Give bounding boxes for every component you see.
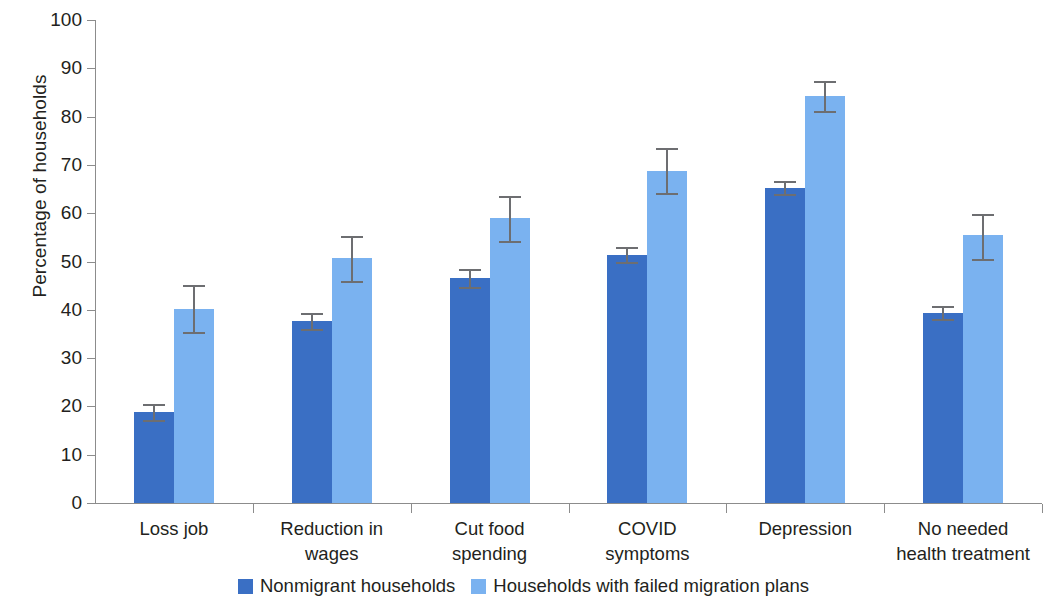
y-axis-tick-mark xyxy=(87,213,95,214)
legend-label: Nonmigrant households xyxy=(260,575,455,597)
x-axis-tick-mark xyxy=(411,504,412,513)
error-bar-cap-upper xyxy=(972,214,994,216)
error-bar-cap-lower xyxy=(499,241,521,243)
error-bar-cap-upper xyxy=(932,306,954,308)
chart-legend: Nonmigrant householdsHouseholds with fai… xyxy=(0,575,1047,597)
error-bar-cap-lower xyxy=(143,420,165,422)
bar xyxy=(647,171,687,503)
x-axis-tick-mark xyxy=(726,504,727,513)
y-axis-tick-mark xyxy=(87,455,95,456)
x-axis-category-label: Loss job xyxy=(95,516,253,541)
bar xyxy=(923,313,963,503)
bar xyxy=(607,255,647,503)
bar xyxy=(490,218,530,503)
error-bar xyxy=(193,285,195,332)
y-axis-tick-label: 70 xyxy=(36,154,82,176)
bar xyxy=(134,412,174,503)
error-bar-cap-upper xyxy=(616,247,638,249)
y-axis-tick-mark xyxy=(87,262,95,263)
error-bar-cap-lower xyxy=(616,262,638,264)
legend-item: Nonmigrant households xyxy=(238,575,455,597)
error-bar-cap-upper xyxy=(341,236,363,238)
category-label-line2: health treatment xyxy=(884,541,1042,566)
error-bar xyxy=(311,313,313,329)
error-bar-cap-upper xyxy=(499,196,521,198)
y-axis-tick-labels: 0102030405060708090100 xyxy=(36,0,82,609)
category-label-line1: No needed xyxy=(918,518,1009,539)
error-bar xyxy=(824,81,826,111)
plot-area xyxy=(95,20,1042,503)
error-bar xyxy=(469,269,471,286)
error-bar-cap-lower xyxy=(656,193,678,195)
category-label-line2: spending xyxy=(411,541,569,566)
error-bar-cap-lower xyxy=(301,329,323,331)
category-label-line1: Loss job xyxy=(139,518,208,539)
y-axis-tick-mark xyxy=(87,358,95,359)
error-bar-cap-upper xyxy=(774,181,796,183)
legend-label: Households with failed migration plans xyxy=(493,575,809,597)
error-bar-cap-upper xyxy=(183,285,205,287)
bar xyxy=(292,321,332,503)
category-label-line1: Reduction in xyxy=(280,518,383,539)
error-bar-cap-lower xyxy=(972,259,994,261)
error-bar-cap-upper xyxy=(143,404,165,406)
error-bar-cap-lower xyxy=(932,319,954,321)
category-label-line2: wages xyxy=(253,541,411,566)
category-label-line2: symptoms xyxy=(569,541,727,566)
category-label-line1: COVID xyxy=(618,518,677,539)
error-bar-cap-lower xyxy=(459,287,481,289)
y-axis-tick-label: 0 xyxy=(36,492,82,514)
y-axis-tick-label: 50 xyxy=(36,251,82,273)
x-axis-category-label: Cut foodspending xyxy=(411,516,569,566)
category-label-line1: Depression xyxy=(758,518,852,539)
error-bar-cap-lower xyxy=(341,281,363,283)
error-bar xyxy=(351,236,353,280)
bar xyxy=(805,96,845,503)
y-axis-tick-label: 20 xyxy=(36,395,82,417)
error-bar xyxy=(153,404,155,419)
error-bar xyxy=(982,214,984,258)
error-bar-cap-lower xyxy=(183,332,205,334)
error-bar xyxy=(509,196,511,241)
bar xyxy=(765,188,805,503)
y-axis-tick-label: 100 xyxy=(36,9,82,31)
y-axis-tick-mark xyxy=(87,406,95,407)
y-axis-tick-label: 80 xyxy=(36,106,82,128)
bar-chart: Percentage of households 010203040506070… xyxy=(0,0,1047,609)
x-axis-tick-mark xyxy=(253,504,254,513)
x-axis-category-label: Reduction inwages xyxy=(253,516,411,566)
legend-item: Households with failed migration plans xyxy=(471,575,809,597)
bar xyxy=(174,309,214,503)
error-bar xyxy=(666,148,668,193)
y-axis-tick-label: 10 xyxy=(36,444,82,466)
x-axis-tick-mark xyxy=(1042,504,1043,513)
error-bar-cap-upper xyxy=(814,81,836,83)
error-bar xyxy=(784,181,786,195)
x-axis-category-label: Depression xyxy=(726,516,884,541)
y-axis-tick-mark xyxy=(87,20,95,21)
y-axis-tick-mark xyxy=(87,165,95,166)
x-axis-tick-mark xyxy=(569,504,570,513)
y-axis-tick-label: 30 xyxy=(36,347,82,369)
x-axis-category-label: COVIDsymptoms xyxy=(569,516,727,566)
bar xyxy=(450,278,490,503)
legend-swatch xyxy=(471,579,486,594)
y-axis-tick-mark xyxy=(87,310,95,311)
category-label-line1: Cut food xyxy=(455,518,525,539)
error-bar-cap-upper xyxy=(459,269,481,271)
error-bar-cap-upper xyxy=(656,148,678,150)
y-axis-tick-mark xyxy=(87,503,95,504)
y-axis-tick-label: 90 xyxy=(36,57,82,79)
y-axis-tick-label: 40 xyxy=(36,299,82,321)
error-bar-cap-lower xyxy=(814,111,836,113)
error-bar xyxy=(942,306,944,320)
legend-swatch xyxy=(238,579,253,594)
bar xyxy=(963,235,1003,503)
error-bar-cap-lower xyxy=(774,194,796,196)
x-axis-category-label: No neededhealth treatment xyxy=(884,516,1042,566)
error-bar-cap-upper xyxy=(301,313,323,315)
y-axis-tick-mark xyxy=(87,117,95,118)
error-bar xyxy=(626,247,628,262)
x-axis-tick-mark xyxy=(884,504,885,513)
y-axis-tick-label: 60 xyxy=(36,202,82,224)
